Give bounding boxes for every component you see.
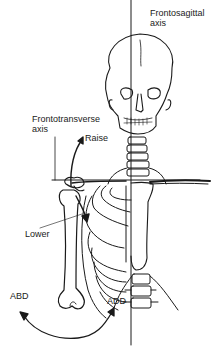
- abd-label: ABD: [10, 291, 29, 301]
- frontosagittal-label-line1: Frontosagittal: [150, 8, 205, 18]
- frontosagittal-label-line2: axis: [150, 18, 205, 28]
- sternum: [131, 182, 153, 270]
- frontosagittal-axis-label: Frontosagittal axis: [150, 8, 205, 28]
- shoulder-joint: [65, 177, 84, 191]
- skull: [106, 34, 173, 134]
- frontotransverse-label-line1: Frontotransverse: [32, 114, 100, 124]
- frontotransverse-axis-label: Frontotransverse axis: [32, 114, 100, 134]
- raise-label: Raise: [85, 133, 108, 143]
- add-label: ADD: [107, 296, 126, 306]
- humerus: [58, 190, 84, 309]
- cervical-spine: [108, 137, 166, 184]
- lower-label: Lower: [25, 229, 50, 239]
